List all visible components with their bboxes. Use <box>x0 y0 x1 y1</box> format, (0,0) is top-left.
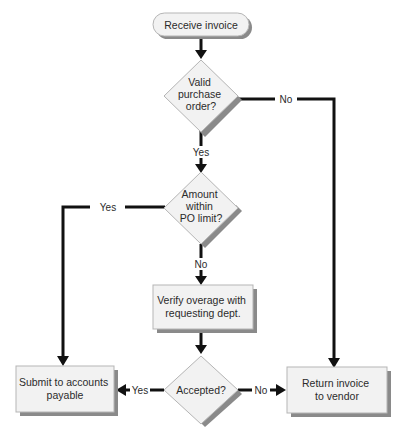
edge-label-valid-yes: Yes <box>193 147 209 158</box>
edge-labels: Yes No Yes No Yes No <box>100 94 293 396</box>
node-submit-accounts-payable: Submit to accounts payable <box>16 366 118 416</box>
edge-label-accepted-no: No <box>255 385 268 396</box>
arrow-down-icon <box>57 356 69 366</box>
node-amount-within-limit: Amount within PO limit? <box>164 172 242 248</box>
edge-limit-yes-left <box>63 207 90 358</box>
edge-label-valid-no: No <box>280 94 293 105</box>
node-valid-purchase-order: Valid purchase order? <box>164 60 242 137</box>
node-accepted: Accepted? <box>164 356 242 427</box>
node-verify-overage: Verify overage with requesting dept. <box>153 285 257 333</box>
node-label: Accepted? <box>176 384 226 396</box>
edge-label-limit-yes: Yes <box>100 202 116 213</box>
flowchart-canvas: Yes No Yes No Yes No Receive invoice Val… <box>0 0 404 436</box>
arrow-down-icon <box>195 50 207 59</box>
arrow-down-icon <box>195 345 207 354</box>
arrow-right-icon <box>276 384 286 396</box>
node-label: Receive invoice <box>164 19 238 31</box>
node-label: Verify overage with requesting dept. <box>157 294 249 319</box>
edge-label-accepted-yes: Yes <box>132 385 148 396</box>
arrow-down-icon <box>195 276 207 285</box>
edge-label-limit-no: No <box>195 259 208 270</box>
node-return-invoice: Return invoice to vendor <box>287 367 391 417</box>
node-receive-invoice: Receive invoice <box>153 13 252 39</box>
edge-valid-no-right <box>297 99 334 360</box>
